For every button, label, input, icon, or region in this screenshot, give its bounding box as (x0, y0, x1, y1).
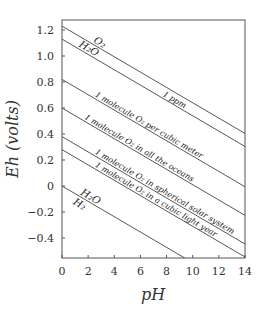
x-tick-label: 8 (163, 265, 170, 278)
x-tick-label: 6 (137, 265, 144, 278)
x-tick-label: 4 (111, 265, 118, 278)
y-tick-label: 1.2 (37, 24, 55, 37)
y-axis: 1.21.00.80.60.40.20−0.2−0.4 (27, 24, 65, 245)
y-tick-label: 0.6 (37, 102, 55, 115)
y-tick-label: 0.4 (37, 128, 55, 141)
series-line (62, 108, 266, 231)
line-label: 1 molecule O₂ in a cubic light year (93, 160, 219, 239)
y-tick-label: −0.2 (27, 206, 54, 219)
x-tick-label: 0 (59, 265, 66, 278)
series-line (62, 39, 266, 162)
y-axis-label: Eh (volts) (3, 100, 22, 179)
x-tick-label: 12 (212, 265, 226, 278)
x-tick-label: 14 (238, 265, 252, 278)
x-tick-label: 2 (85, 265, 92, 278)
y-tick-label: 0 (47, 180, 54, 193)
eh-ph-chart: O₂H₂O1 ppm1 molecule O₂ per cubic meter1… (0, 0, 266, 313)
y-tick-label: 1.0 (37, 50, 55, 63)
line-labels: O₂H₂O1 ppm1 molecule O₂ per cubic meter1… (71, 34, 237, 239)
x-axis-label: pH (141, 285, 166, 304)
y-tick-label: 0.8 (37, 76, 55, 89)
x-tick-label: 10 (186, 265, 200, 278)
y-tick-label: −0.4 (27, 232, 54, 245)
y-tick-label: 0.2 (37, 154, 55, 167)
